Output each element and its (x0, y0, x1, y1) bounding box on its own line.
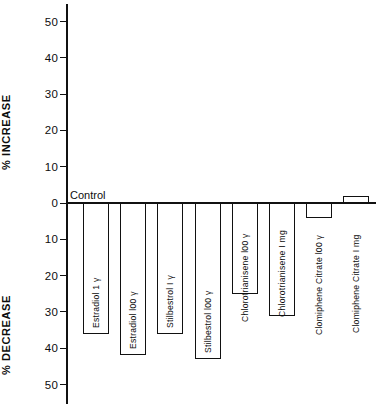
y-axis-tick-mark (60, 130, 67, 131)
y-axis-tick-mark (60, 275, 67, 276)
y-axis-tick-mark (60, 94, 67, 95)
y-axis-tick-label: 30 (45, 306, 58, 318)
y-axis-tick-label: 30 (45, 88, 58, 100)
bar-8[interactable] (343, 196, 369, 203)
control-baseline-label: Control (70, 189, 105, 201)
bar-label-2: Estradiol l00 γ (128, 292, 138, 350)
y-axis-tick-label: 20 (45, 124, 58, 136)
y-axis-tick-mark (60, 203, 67, 204)
bar-label-7: Clomiphene Citrate l00 γ (314, 235, 324, 335)
bar-label-3: Stilbestrol I γ (165, 275, 175, 328)
y-axis-tick-mark (60, 384, 67, 385)
y-axis-tick-label: 40 (45, 52, 58, 64)
y-axis-tick-label: 0 (51, 197, 58, 209)
y-axis-title-increase: % INCREASE (0, 94, 12, 170)
bar-chart: % INCREASE % DECREASE Control 5040302010… (0, 0, 380, 408)
y-axis-tick-mark (60, 311, 67, 312)
y-axis-tick-mark (60, 57, 67, 58)
y-axis-tick-label: 50 (45, 379, 58, 391)
y-axis-line (66, 4, 68, 404)
y-axis-tick-mark (60, 239, 67, 240)
y-axis-tick-label: 50 (45, 16, 58, 28)
bar-label-5: Chlorotrianisene l00 γ (240, 233, 250, 322)
y-axis-tick-label: 10 (45, 161, 58, 173)
bar-label-1: Estradiol 1 γ (91, 277, 101, 328)
y-axis-tick-mark (60, 21, 67, 22)
y-axis-tick-label: 10 (45, 233, 58, 245)
y-axis-tick-mark (60, 348, 67, 349)
bar-7[interactable] (306, 203, 332, 218)
bar-label-4: Stilbestrol l00 γ (203, 291, 213, 354)
y-axis-tick-label: 20 (45, 270, 58, 282)
bar-label-8: Clomiphene Citrate I mg (351, 234, 361, 332)
y-axis-title-decrease: % DECREASE (0, 295, 12, 375)
y-axis-tick-label: 40 (45, 342, 58, 354)
bar-label-6: Chlorotrianisene I mg (277, 230, 287, 317)
y-axis-tick-mark (60, 166, 67, 167)
